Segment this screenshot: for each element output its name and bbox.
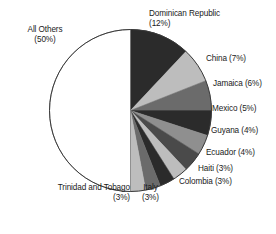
slice-label-trinidad-and-tobago-pct: (3%) xyxy=(113,193,130,202)
slice-label-dominican-republic-pct: (12%) xyxy=(149,19,170,28)
slice-label-italy: Italy(3%) xyxy=(142,183,159,202)
slice-label-dominican-republic-name: Dominican Republic xyxy=(149,9,220,18)
slice-label-all-others-name: All Others xyxy=(28,25,63,34)
slice-label-trinidad-and-tobago: Trinidad and Tobago(3%) xyxy=(38,183,130,202)
slice-label-colombia: Colombia (3%) xyxy=(179,177,232,187)
slice-label-all-others: All Others(50%) xyxy=(8,25,82,44)
slice-label-ecuador: Ecuador (4%) xyxy=(206,148,255,158)
slice-label-jamaica: Jamaica (6%) xyxy=(213,79,262,89)
slice-label-italy-pct: (3%) xyxy=(142,193,159,202)
slice-label-dominican-republic: Dominican Republic(12%) xyxy=(149,9,220,28)
slice-label-haiti: Haiti (3%) xyxy=(198,164,233,174)
slice-label-trinidad-and-tobago-name: Trinidad and Tobago xyxy=(58,183,130,192)
pie-slice-group xyxy=(50,30,212,192)
slice-label-italy-name: Italy xyxy=(143,183,158,192)
slice-label-china: China (7%) xyxy=(206,54,246,64)
pie-chart-figure: Dominican Republic(12%) China (7%) Jamai… xyxy=(0,0,276,234)
slice-label-guyana: Guyana (4%) xyxy=(211,126,258,136)
slice-label-all-others-pct: (50%) xyxy=(34,35,55,44)
pie-slice-all-others xyxy=(50,30,131,192)
slice-label-mexico: Mexico (5%) xyxy=(212,104,256,114)
